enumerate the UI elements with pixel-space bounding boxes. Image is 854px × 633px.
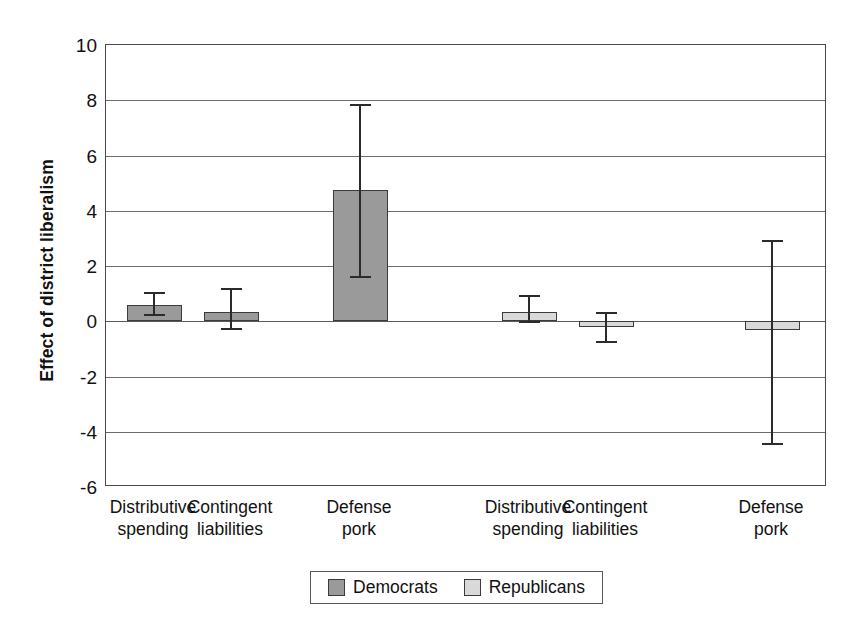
error-bar-cap-upper-democrats-1 — [221, 288, 242, 290]
x-category-label-republicans-2: Defensepork — [691, 496, 851, 541]
error-bar-cap-lower-republicans-2 — [762, 443, 783, 445]
y-tick-label-8: 8 — [51, 91, 97, 110]
x-category-label-republicans-1: Contingentliabilities — [525, 496, 685, 541]
gridline-0 — [106, 321, 825, 322]
legend-label-republicans: Republicans — [489, 579, 585, 597]
y-tick-label-6: 6 — [51, 146, 97, 165]
y-tick-label--2: -2 — [51, 367, 97, 386]
y-tick-label--6: -6 — [51, 478, 97, 497]
y-tick-label-4: 4 — [51, 201, 97, 220]
gridline--4 — [106, 432, 825, 433]
error-bar-line-democrats-2 — [359, 104, 361, 275]
legend-label-democrats: Democrats — [353, 579, 438, 597]
chart-legend: Democrats Republicans — [310, 571, 603, 604]
error-bar-cap-upper-republicans-1 — [596, 312, 617, 314]
error-bar-line-democrats-1 — [230, 288, 232, 328]
error-bar-line-republicans-0 — [528, 295, 530, 321]
y-tick-label-0: 0 — [51, 312, 97, 331]
plot-area: 1086420-2-4-6 — [105, 44, 826, 486]
legend-item-democrats: Democrats — [328, 579, 438, 597]
legend-swatch-democrats — [328, 579, 345, 596]
x-category-label-democrats-2: Defensepork — [279, 496, 439, 541]
legend-swatch-republicans — [464, 579, 481, 596]
error-bar-cap-upper-republicans-2 — [762, 240, 783, 242]
error-bar-line-republicans-2 — [771, 240, 773, 443]
gridline-8 — [106, 100, 825, 101]
error-bar-line-democrats-0 — [153, 292, 155, 314]
error-bar-line-republicans-1 — [605, 312, 607, 341]
y-tick-label--4: -4 — [51, 422, 97, 441]
gridline-4 — [106, 211, 825, 212]
error-bar-cap-lower-republicans-1 — [596, 341, 617, 343]
error-bar-cap-upper-democrats-2 — [350, 104, 371, 106]
error-bar-cap-lower-democrats-1 — [221, 328, 242, 330]
legend-item-republicans: Republicans — [464, 579, 585, 597]
y-tick-label-10: 10 — [51, 36, 97, 55]
chart-container: Effect of district liberalism 1086420-2-… — [0, 0, 854, 633]
error-bar-cap-upper-republicans-0 — [519, 295, 540, 297]
error-bar-cap-lower-democrats-2 — [350, 276, 371, 278]
gridline-2 — [106, 266, 825, 267]
gridline-6 — [106, 156, 825, 157]
gridline--2 — [106, 377, 825, 378]
error-bar-cap-lower-democrats-0 — [144, 314, 165, 316]
error-bar-cap-lower-republicans-0 — [519, 321, 540, 323]
y-tick-label-2: 2 — [51, 257, 97, 276]
error-bar-cap-upper-democrats-0 — [144, 292, 165, 294]
